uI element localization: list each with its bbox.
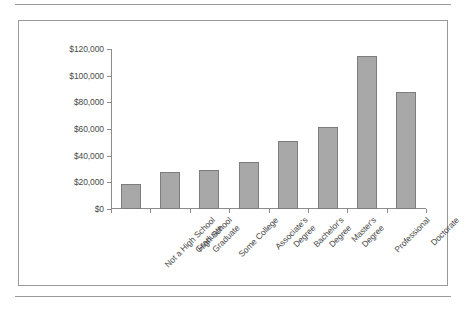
page-rule-bottom bbox=[15, 296, 451, 297]
bar bbox=[160, 172, 180, 209]
x-axis-label: Doctorate bbox=[429, 215, 462, 248]
y-axis-label: $40,000 bbox=[74, 151, 104, 161]
x-tick bbox=[426, 209, 427, 213]
plot-area: $0$20,000$40,000$60,000$80,000$100,000$1… bbox=[111, 49, 426, 209]
bar bbox=[239, 162, 259, 209]
x-axis-label: Professional bbox=[392, 215, 432, 255]
x-axis-label: Master'sDegree bbox=[349, 215, 386, 252]
x-label-group: Not a High SchoolGraduateHigh SchoolGrad… bbox=[111, 209, 426, 279]
y-axis-label: $80,000 bbox=[74, 97, 104, 107]
bar-group bbox=[111, 49, 426, 209]
bar bbox=[121, 184, 141, 209]
chart-frame: $0$20,000$40,000$60,000$80,000$100,000$1… bbox=[18, 20, 448, 286]
page-rule-top bbox=[15, 4, 451, 5]
bar bbox=[396, 92, 416, 209]
x-axis-label-line1: Professional bbox=[392, 215, 431, 254]
x-axis-label-line1: Doctorate bbox=[429, 215, 461, 247]
bar bbox=[318, 127, 338, 209]
x-axis-label: Bachelor'sDegree bbox=[311, 215, 353, 257]
y-axis-label: $120,000 bbox=[69, 44, 104, 54]
bar bbox=[357, 56, 377, 209]
y-axis-label: $0 bbox=[95, 204, 104, 214]
y-axis-label: $100,000 bbox=[69, 71, 104, 81]
bar bbox=[278, 141, 298, 209]
y-axis-label: $60,000 bbox=[74, 124, 104, 134]
x-axis-label-line1: Some College bbox=[237, 215, 281, 259]
bar bbox=[199, 170, 219, 209]
x-axis-label: Some College bbox=[237, 215, 281, 259]
y-axis-label: $20,000 bbox=[74, 177, 104, 187]
